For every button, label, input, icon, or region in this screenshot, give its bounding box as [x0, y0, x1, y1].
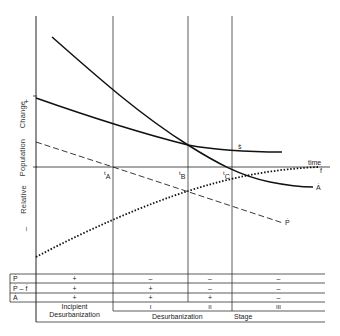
y-axis-label-change: Change — [18, 97, 27, 133]
stage-numeral-2: II — [188, 304, 232, 310]
curve-p-dot — [36, 142, 283, 223]
stage-numeral-1: I — [113, 304, 188, 310]
y-minus-marker: – — [23, 227, 31, 231]
incipient-label-line1: Incipient — [36, 303, 113, 310]
t-a-sub: A — [106, 173, 111, 180]
stage-label-desurbanization: Desurbanization — [152, 313, 203, 320]
label-p-dot: Ṗ — [285, 219, 290, 226]
label-a-dot: Ȧ — [316, 184, 321, 191]
cell-c0-r2: + — [36, 294, 113, 301]
t-c-sub: C — [225, 173, 230, 180]
cell-c0-r1: + — [36, 285, 113, 292]
cell-c2-r0: – — [188, 275, 232, 282]
row-label-p-minus-f: Ṗ – ḟ — [13, 285, 27, 292]
time-axis-label: time — [308, 159, 321, 166]
cell-c0-r0: + — [36, 275, 113, 282]
curve-f-dot — [36, 167, 318, 257]
cell-c3-r0: – — [232, 275, 325, 282]
t-a-label: tA — [104, 170, 110, 177]
stage-label-stage: Stage — [234, 313, 252, 320]
cell-c3-r2: – — [232, 294, 325, 301]
cell-c1-r2: + — [113, 294, 188, 301]
y-axis-label-population: Population — [18, 132, 27, 184]
cell-c1-r1: + — [113, 285, 188, 292]
cell-c2-r1: – — [188, 285, 232, 292]
cell-c2-r2: + — [188, 294, 232, 301]
label-f-dot: ḟ — [320, 167, 322, 174]
row-label-p-dot: Ṗ — [13, 275, 18, 282]
incipient-label-line2: Desurbanization — [36, 311, 113, 318]
label-s-dot: ṡ — [238, 143, 242, 150]
row-label-a-dot: Ȧ — [13, 294, 18, 301]
t-c-label: tC — [223, 170, 230, 177]
t-b-sub: B — [181, 173, 186, 180]
cell-c1-r0: – — [113, 275, 188, 282]
cell-c3-r1: – — [232, 285, 325, 292]
stage-numeral-3: III — [232, 304, 325, 310]
t-b-label: tB — [179, 170, 185, 177]
curve-a-dot — [52, 37, 313, 187]
y-axis-label-relative: Relative — [19, 180, 28, 220]
